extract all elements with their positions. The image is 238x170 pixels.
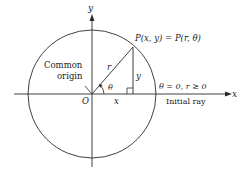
radius-label: r [107, 62, 112, 72]
leg-x-label: x [114, 96, 119, 106]
right-angle-marker [127, 88, 133, 94]
x-axis-arrow-icon [225, 92, 232, 97]
common-origin-label-line2: origin [57, 71, 83, 81]
initial-ray-label: Initial ray [166, 97, 206, 106]
common-origin-pointer [85, 86, 91, 93]
polar-diagram: y x P(x, y) = P(r, θ) Common origin r θ … [0, 0, 238, 170]
y-axis-arrow-icon [90, 14, 95, 21]
initial-ray-condition: θ = 0, r ≥ 0 [159, 82, 206, 91]
common-origin-label-line1: Common [44, 60, 83, 70]
leg-y-label: y [135, 71, 141, 81]
y-axis-label: y [87, 3, 94, 13]
angle-label: θ [108, 83, 113, 92]
point-label: P(x, y) = P(r, θ) [134, 33, 201, 43]
x-axis-label: x [232, 89, 237, 99]
origin-label: O [82, 96, 89, 106]
